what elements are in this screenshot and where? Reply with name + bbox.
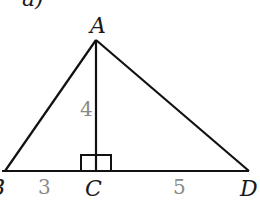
length-label-cd: 5 — [173, 175, 186, 199]
length-label-bc: 3 — [38, 175, 51, 199]
vertex-label-c: C — [85, 176, 102, 201]
vertex-label-d: D — [239, 176, 258, 201]
length-label-ac: 4 — [80, 97, 93, 121]
vertex-label-a: A — [88, 13, 106, 38]
side-ad — [96, 40, 249, 171]
vertex-label-b: B — [0, 175, 5, 200]
triangle-diagram: a) A B C D 4 3 5 — [0, 0, 260, 209]
part-label: a) — [22, 0, 44, 11]
